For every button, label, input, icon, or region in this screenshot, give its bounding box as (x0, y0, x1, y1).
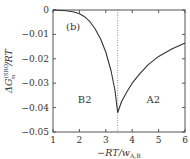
x-axis-title: −RT/wA,B (97, 147, 141, 159)
chart: 1234560−0.01−0.02−0.03−0.04−0.05 (b) B2 … (0, 0, 190, 159)
svg-text:−0.01: −0.01 (21, 29, 49, 39)
panel-label: (b) (66, 21, 80, 32)
region-label-a2: A2 (146, 94, 161, 105)
svg-text:3: 3 (103, 135, 109, 145)
svg-text:−0.02: −0.02 (21, 54, 49, 64)
svg-text:1: 1 (50, 135, 56, 145)
y-axis-title: ΔG(SRO)m/RT (3, 48, 16, 94)
svg-text:ΔG(SRO)m/RT: ΔG(SRO)m/RT (3, 48, 16, 94)
svg-text:5: 5 (156, 135, 162, 145)
svg-text:−0.05: −0.05 (21, 127, 49, 137)
svg-text:−0.04: −0.04 (21, 103, 49, 113)
svg-text:−RT/wA,B: −RT/wA,B (97, 147, 141, 159)
svg-text:−0.03: −0.03 (21, 78, 49, 88)
svg-text:2: 2 (77, 135, 83, 145)
tick-labels: 1234560−0.01−0.02−0.03−0.04−0.05 (21, 5, 188, 145)
svg-text:4: 4 (129, 135, 135, 145)
region-label-b2: B2 (78, 94, 92, 105)
svg-text:6: 6 (182, 135, 188, 145)
svg-text:0: 0 (43, 5, 49, 15)
